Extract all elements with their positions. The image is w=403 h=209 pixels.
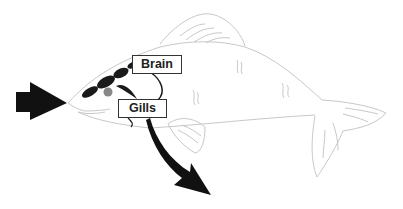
outflow-arrow-icon <box>146 118 211 195</box>
fish-diagram <box>0 0 403 209</box>
brain-label: Brain <box>132 55 182 74</box>
gills-label: Gills <box>118 99 167 118</box>
eye <box>104 88 113 97</box>
connector-line <box>150 72 162 100</box>
fish-outline <box>68 14 386 177</box>
brain-label-text: Brain <box>141 57 173 71</box>
gill-flap <box>116 85 137 99</box>
gills-label-text: Gills <box>129 101 156 115</box>
inflow-arrow-icon <box>16 82 67 120</box>
